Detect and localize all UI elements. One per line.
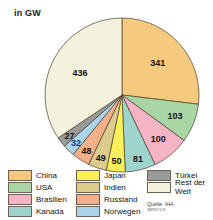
unit-label: in GW [14, 8, 41, 18]
slice-value-indien: 49 [96, 153, 106, 163]
legend-swatch [8, 194, 32, 205]
legend-swatch [8, 206, 32, 217]
legend-item: Kanada [8, 206, 67, 217]
legend-item: Indien [76, 182, 140, 193]
legend: ChinaUSABrasilienKanada JapanIndienRussl… [0, 170, 213, 220]
slice-value-china: 341 [150, 58, 165, 68]
slice-value-kanada: 81 [133, 154, 143, 164]
legend-item: Brasilien [8, 194, 67, 205]
legend-swatch [8, 182, 32, 193]
legend-label: Brasilien [36, 195, 67, 204]
legend-swatch [76, 194, 100, 205]
legend-item: Russland [76, 194, 140, 205]
slice-value-usa: 103 [167, 111, 182, 121]
pie-chart-infographic: in GW 341103100815049483227436 ChinaUSAB… [0, 0, 213, 220]
slice-value-brasilien: 100 [151, 134, 166, 144]
legend-item: Japan [76, 170, 140, 181]
legend-label: Norwegen [104, 207, 140, 216]
legend-column-1: ChinaUSABrasilienKanada [8, 170, 67, 218]
slice-value-rest-der-welt: 436 [72, 68, 87, 78]
legend-column-2: JapanIndienRusslandNorwegen [76, 170, 140, 218]
legend-swatch [8, 170, 32, 181]
legend-swatch [76, 170, 100, 181]
legend-swatch [147, 182, 171, 193]
source-attribution: Quelle: IHA 38957CX [147, 201, 174, 213]
legend-item: USA [8, 182, 67, 193]
slice-value-russland: 48 [81, 146, 91, 156]
legend-item: China [8, 170, 67, 181]
pie-svg [44, 17, 200, 173]
legend-swatch [147, 170, 171, 181]
legend-label: Kanada [36, 207, 64, 216]
legend-label: China [36, 171, 57, 180]
legend-swatch [76, 206, 100, 217]
legend-item: Rest der Welt [147, 182, 213, 193]
legend-label: USA [36, 183, 52, 192]
legend-column-3: TürkeiRest der Welt [147, 170, 213, 194]
pie-chart: 341103100815049483227436 [44, 17, 200, 173]
legend-label: Rest der Welt [175, 179, 213, 196]
legend-item: Norwegen [76, 206, 140, 217]
slice-value-japan: 50 [112, 156, 122, 166]
legend-swatch [76, 182, 100, 193]
legend-label: Indien [104, 183, 126, 192]
legend-label: Russland [104, 195, 137, 204]
legend-label: Japan [104, 171, 126, 180]
slice-value-turkei: 27 [65, 131, 75, 141]
source-code: 38957CX [147, 207, 174, 213]
